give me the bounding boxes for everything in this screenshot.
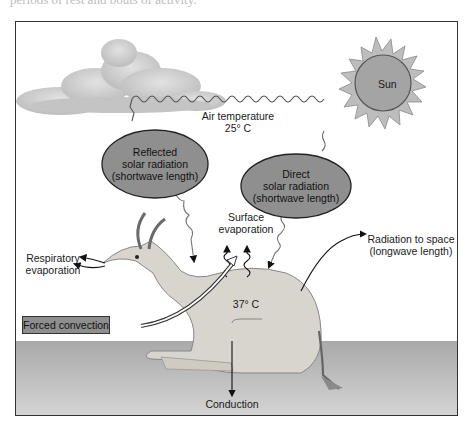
reflected-label-2: solar radiation xyxy=(102,158,208,170)
conduction-label: Conduction xyxy=(202,398,262,410)
radiation-to-space-label-2: (longwave length) xyxy=(361,245,458,257)
surface-evaporation-label-1: Surface xyxy=(211,211,281,223)
heat-exchange-diagram: Sun Air temperature 25° C Reflected sola… xyxy=(15,21,458,416)
direct-label-2: solar radiation xyxy=(241,180,351,192)
surface-evaporation-label-2: evaporation xyxy=(211,223,281,235)
cloud-icon xyxy=(16,39,226,115)
radiation-to-space-arrow xyxy=(301,234,365,291)
direct-label-3: (shortwave length) xyxy=(241,192,351,204)
caption-fragment: periods of rest and bouts of activity. xyxy=(10,0,197,8)
sun-label: Sun xyxy=(378,78,388,90)
air-temperature-label: Air temperature xyxy=(198,110,278,122)
reflected-label-3: (shortwave length) xyxy=(102,170,208,182)
radiation-to-space-label-1: Radiation to space xyxy=(361,233,458,245)
air-temperature-value: 25° C xyxy=(198,122,278,134)
direct-label-1: Direct xyxy=(241,168,351,180)
forced-convection-label: Forced convection xyxy=(22,316,110,334)
reflected-label-1: Reflected xyxy=(102,146,208,158)
respiratory-evaporation-label-2: evaporation xyxy=(18,264,88,276)
body-temperature-label: 37° C xyxy=(226,298,266,310)
respiratory-evaporation-label-1: Respiratory xyxy=(18,252,88,264)
